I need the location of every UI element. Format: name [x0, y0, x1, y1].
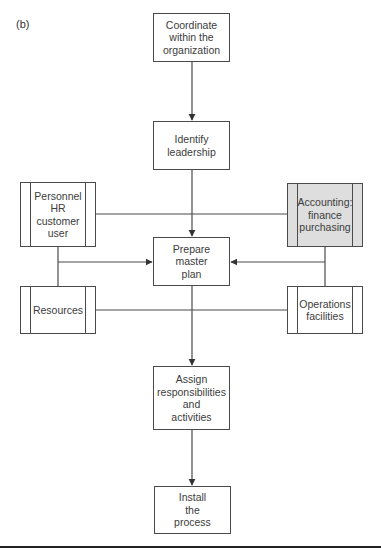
node-identify-leadership: Identify leadership: [153, 121, 230, 170]
node-install-process: Install the process: [154, 486, 231, 534]
node-assign-responsibilities: Assign responsibilities and activities: [153, 366, 230, 430]
node-label: Assign responsibilities and activities: [155, 373, 228, 423]
node-coordinate: Coordinate within the organization: [153, 13, 230, 62]
node-label: Install the process: [164, 491, 221, 529]
bottom-rule: [0, 546, 381, 548]
node-label: Resources: [23, 304, 93, 317]
node-label: Prepare master plan: [163, 243, 220, 281]
node-label: Coordinate within the organization: [153, 19, 230, 57]
node-personnel: Personnel HR customer user: [20, 182, 96, 247]
node-resources: Resources: [20, 286, 96, 334]
node-prepare-master-plan: Prepare master plan: [153, 237, 230, 286]
node-label: Personnel HR customer user: [24, 190, 91, 240]
node-label: Identify leadership: [157, 133, 225, 158]
node-accounting: Accounting: finance purchasing: [287, 183, 363, 247]
node-label: Accounting: finance purchasing: [288, 196, 363, 234]
node-operations: Operations facilities: [287, 286, 363, 334]
node-label: Operations facilities: [289, 298, 360, 323]
